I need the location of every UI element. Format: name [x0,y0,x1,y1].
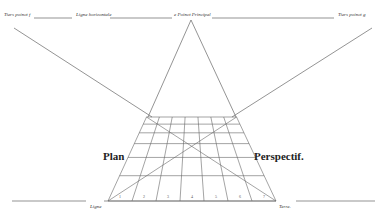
base-number: 2 [143,194,145,199]
perspective-diagram: 1234567 Tiers poinct f Ligne horizontale… [0,0,383,214]
base-number: 6 [239,194,241,199]
grid-orthogonal [156,117,172,201]
right-distance-ray [232,28,372,117]
left-distance-point-label: Tiers poinct f [4,12,30,17]
grid-orthogonal [132,117,159,201]
principal-ray-left [148,20,191,117]
principal-ray-right [191,20,236,117]
base-number: 4 [191,194,193,199]
base-numbers: 1234567 [119,194,265,199]
plan-label: Plan [103,150,124,162]
ground-line-right-label: Terre. [279,204,291,209]
diagonal-lines [108,117,276,201]
grid-orthogonal [198,117,204,201]
perspective-grid [108,117,276,201]
base-number: 7 [263,194,265,199]
right-distance-point-label: Tiers poinct g [338,12,366,17]
grid-orthogonal [180,117,185,201]
perspective-label: Perspectif. [254,150,304,162]
perspective-drawing: 1234567 [0,0,383,214]
grid-orthogonal [211,117,228,201]
left-distance-ray [14,28,152,117]
base-number: 3 [167,194,169,199]
ground-line-left-label: Ligne [90,204,101,209]
horizon-line-label: Ligne horizontale [76,12,111,17]
base-number: 5 [215,194,217,199]
grid-orthogonal [224,117,252,201]
principal-point-label: e Poinct Principal [174,12,211,17]
base-number: 1 [119,194,121,199]
